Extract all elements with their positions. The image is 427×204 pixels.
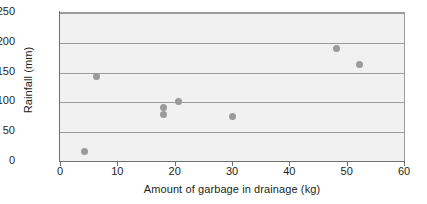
y-tick-label: 0	[0, 155, 15, 166]
data-point	[93, 73, 100, 80]
y-axis-title: Rainfall (mm)	[22, 5, 34, 155]
gridline-y	[60, 43, 404, 44]
data-point	[229, 113, 236, 120]
y-tick-label: 150	[0, 66, 15, 77]
gridline-y	[60, 13, 404, 14]
y-tick-label: 200	[0, 36, 15, 47]
y-tick-label: 250	[0, 6, 15, 17]
gridline-y	[60, 102, 404, 103]
x-tick-label: 40	[269, 166, 309, 177]
gridline-y	[60, 73, 404, 74]
data-point	[160, 111, 167, 118]
plot-inner	[60, 13, 404, 162]
y-axis-line	[59, 11, 60, 162]
y-tick-label: 100	[0, 95, 15, 106]
data-point	[160, 104, 167, 111]
x-tick-label: 50	[327, 166, 367, 177]
gridline-y	[60, 132, 404, 133]
y-tick-label: 50	[0, 125, 15, 136]
x-tick-label: 10	[97, 166, 137, 177]
data-point	[356, 61, 363, 68]
x-tick-label: 20	[155, 166, 195, 177]
data-point	[333, 45, 340, 52]
data-point	[175, 98, 182, 105]
x-tick-label: 30	[212, 166, 252, 177]
scatter-chart: Rainfall (mm) 050100150200250 0102030405…	[0, 0, 427, 204]
x-axis-title: Amount of garbage in drainage (kg)	[60, 183, 404, 195]
x-tick-label: 0	[40, 166, 80, 177]
x-tick-label: 60	[384, 166, 424, 177]
plot-area	[60, 12, 405, 162]
data-point	[81, 148, 88, 155]
